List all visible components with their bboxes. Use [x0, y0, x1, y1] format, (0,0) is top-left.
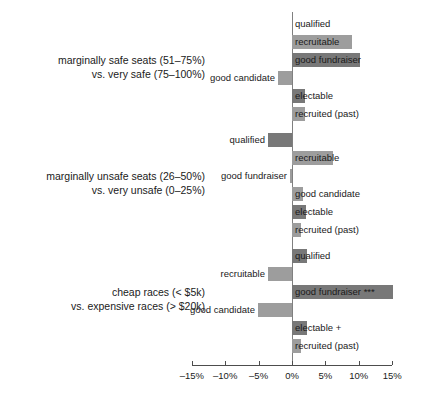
group-label-group-cheap-races: cheap races (< $5k)vs. expensive races (… — [10, 286, 205, 313]
bar-value-label: qualified — [230, 133, 268, 147]
bar-value-label: electable — [295, 205, 333, 219]
bar-value-label: good fundraiser *** — [295, 285, 375, 299]
x-axis-tick-mark — [292, 361, 293, 365]
bar-negative — [278, 71, 292, 85]
bar-row: qualified — [205, 249, 425, 263]
x-axis-line — [192, 365, 392, 366]
x-axis-tick-mark — [192, 361, 193, 365]
x-axis-tick-mark — [359, 361, 360, 365]
bar-row: electable + — [205, 321, 425, 335]
bar-value-label: recruitable — [221, 267, 268, 281]
bar-chart-figure: marginally safe seats (51–75%)vs. very s… — [0, 0, 425, 402]
x-axis-tick-label: –15% — [180, 370, 204, 381]
plot-area: qualifiedrecruitablegood fundraisergood … — [205, 0, 425, 402]
x-axis-tick-mark — [392, 361, 393, 365]
x-axis-tick-label: –5% — [249, 370, 268, 381]
bar-negative — [290, 169, 292, 183]
bar-value-label: recruitable — [295, 151, 339, 165]
bar-row: recruitable — [205, 35, 425, 49]
bar-row: recruited (past) — [205, 107, 425, 121]
group-label-group-safe-seats: marginally safe seats (51–75%)vs. very s… — [10, 54, 205, 81]
bar-row: good fundraiser — [205, 169, 425, 183]
bar-row: good candidate — [205, 187, 425, 201]
x-axis-tick-mark — [225, 361, 226, 365]
bar-row: good fundraiser — [205, 53, 425, 67]
bar-value-label: electable — [295, 89, 333, 103]
bar-value-label: good fundraiser — [221, 169, 290, 183]
bar-row: good candidate — [205, 71, 425, 85]
bar-value-label: electable + — [295, 321, 341, 335]
x-axis-tick-mark — [259, 361, 260, 365]
bar-row: recruited (past) — [205, 223, 425, 237]
x-axis-tick-label: 0% — [285, 370, 299, 381]
x-axis-tick-label: 10% — [349, 370, 368, 381]
group-label-line-1: marginally unsafe seats (26–50%) — [10, 170, 205, 184]
bar-row: qualified — [205, 133, 425, 147]
bar-negative — [258, 303, 292, 317]
bar-row: electable — [205, 205, 425, 219]
bar-value-label: recruited (past) — [295, 107, 359, 121]
bar-value-label: good fundraiser — [295, 53, 361, 67]
group-label-line-2: vs. very safe (75–100%) — [10, 68, 205, 82]
group-label-group-unsafe-seats: marginally unsafe seats (26–50%)vs. very… — [10, 170, 205, 197]
group-label-line-2: vs. very unsafe (0–25%) — [10, 184, 205, 198]
bar-negative — [268, 267, 292, 281]
bar-value-label: qualified — [295, 249, 330, 263]
group-label-line-1: marginally safe seats (51–75%) — [10, 54, 205, 68]
group-label-line-1: cheap races (< $5k) — [10, 286, 205, 300]
bar-row: good fundraiser *** — [205, 285, 425, 299]
bar-value-label: recruitable — [295, 35, 339, 49]
x-axis-tick-mark — [325, 361, 326, 365]
bar-value-label: qualified — [295, 17, 330, 31]
group-label-line-2: vs. expensive races (> $20k) — [10, 300, 205, 314]
x-axis-tick-label: –10% — [213, 370, 237, 381]
group-labels-column: marginally safe seats (51–75%)vs. very s… — [0, 0, 205, 402]
bar-value-label: recruited (past) — [295, 223, 359, 237]
bar-value-label: good candidate — [190, 303, 258, 317]
bar-value-label: good candidate — [295, 187, 360, 201]
bar-negative — [268, 133, 292, 147]
bar-row: good candidate — [205, 303, 425, 317]
x-axis-tick-label: 15% — [383, 370, 402, 381]
bar-value-label: recruited (past) — [295, 339, 359, 353]
x-axis-tick-label: 5% — [319, 370, 333, 381]
bar-row: electable — [205, 89, 425, 103]
bar-row: qualified — [205, 17, 425, 31]
bar-row: recruitable — [205, 267, 425, 281]
bar-row: recruitable — [205, 151, 425, 165]
bar-row: recruited (past) — [205, 339, 425, 353]
bar-value-label: good candidate — [210, 71, 278, 85]
